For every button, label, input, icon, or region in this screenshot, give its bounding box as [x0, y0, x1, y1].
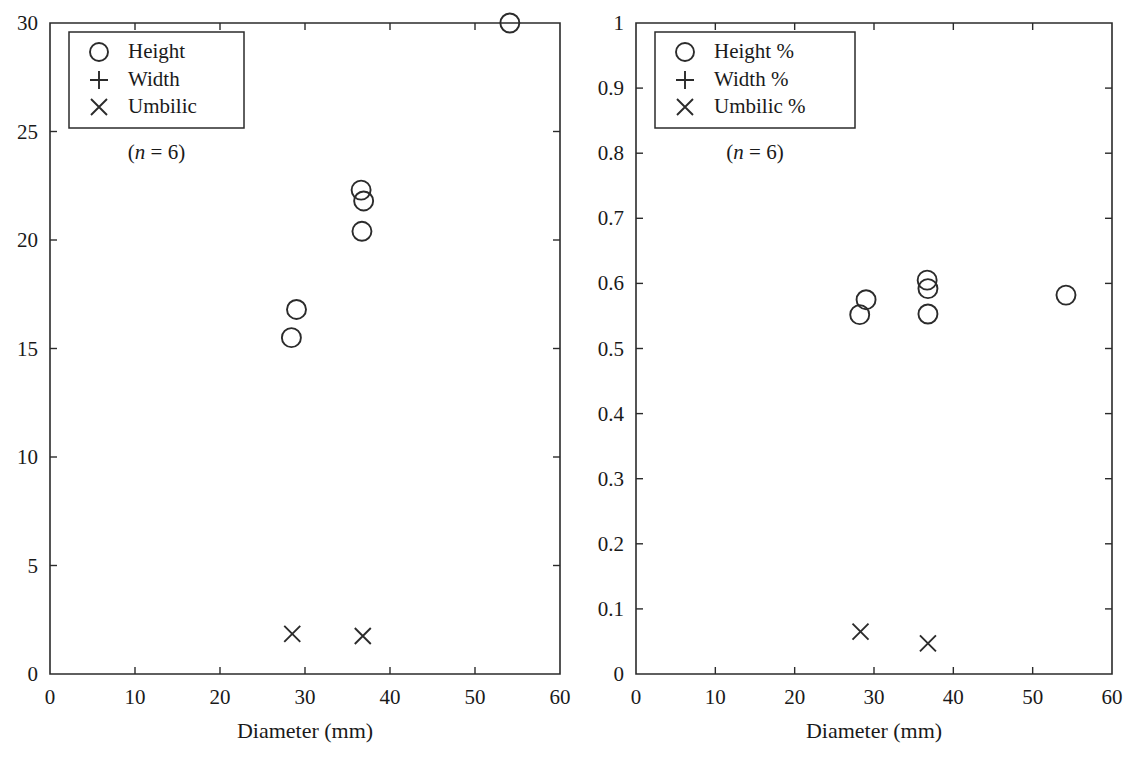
- y-tick-label: 10: [17, 445, 38, 469]
- y-tick-label: 0: [614, 662, 625, 686]
- legend-label: Height: [128, 39, 185, 63]
- data-point-cross: [920, 635, 936, 651]
- note-open-paren: (: [128, 140, 135, 164]
- data-point-circle: [287, 300, 306, 319]
- scatter-plot-right-svg: 00.10.20.30.40.50.60.70.80.9101020304050…: [586, 0, 1139, 758]
- legend-label: Width %: [714, 67, 788, 91]
- y-tick-label: 15: [17, 337, 38, 361]
- y-tick-label: 0.2: [598, 532, 624, 556]
- scatter-plot-left-svg: 0510152025300102030405060Diameter (mm)He…: [0, 0, 600, 758]
- x-axis-title: Diameter (mm): [806, 718, 942, 743]
- note-n-italic: n: [733, 140, 744, 164]
- y-tick-label: 1: [614, 11, 625, 35]
- figure-container: 0510152025300102030405060Diameter (mm)He…: [0, 0, 1139, 758]
- data-point-cross: [284, 626, 300, 642]
- y-tick-label: 0.4: [598, 402, 625, 426]
- data-point-circle: [850, 305, 869, 324]
- data-point-circle: [282, 328, 301, 347]
- y-tick-label: 0.1: [598, 597, 624, 621]
- y-tick-label: 30: [17, 11, 38, 35]
- y-tick-label: 0.9: [598, 76, 624, 100]
- scatter-panel-left: 0510152025300102030405060Diameter (mm)He…: [0, 0, 600, 758]
- legend-label: Height %: [714, 39, 794, 63]
- x-tick-label: 40: [943, 685, 964, 709]
- x-tick-label: 50: [1022, 685, 1043, 709]
- x-tick-label: 0: [631, 685, 642, 709]
- sample-size-note: (n = 6): [128, 140, 185, 164]
- data-point-cross: [355, 628, 371, 644]
- y-tick-label: 0: [28, 662, 39, 686]
- x-tick-label: 10: [125, 685, 146, 709]
- data-point-cross: [853, 624, 869, 640]
- x-tick-label: 50: [465, 685, 486, 709]
- data-point-circle: [354, 191, 373, 210]
- y-tick-label: 0.3: [598, 467, 624, 491]
- scatter-panel-right: 00.10.20.30.40.50.60.70.80.9101020304050…: [586, 0, 1139, 758]
- x-tick-label: 30: [295, 685, 316, 709]
- x-axis-title: Diameter (mm): [237, 718, 373, 743]
- y-tick-label: 5: [28, 554, 39, 578]
- y-tick-label: 25: [17, 120, 38, 144]
- y-tick-label: 20: [17, 228, 38, 252]
- legend-label: Umbilic %: [714, 94, 806, 118]
- y-tick-label: 0.5: [598, 337, 624, 361]
- x-tick-label: 20: [784, 685, 805, 709]
- x-tick-label: 30: [864, 685, 885, 709]
- y-tick-label: 0.7: [598, 206, 624, 230]
- y-tick-label: 0.6: [598, 271, 624, 295]
- x-tick-label: 20: [210, 685, 231, 709]
- x-tick-label: 10: [705, 685, 726, 709]
- x-tick-label: 0: [45, 685, 56, 709]
- x-tick-label: 60: [550, 685, 571, 709]
- note-rest: = 6): [145, 140, 185, 164]
- legend-label: Umbilic: [128, 94, 197, 118]
- sample-size-note: (n = 6): [726, 140, 783, 164]
- data-point-circle: [1056, 286, 1075, 305]
- data-point-circle: [352, 222, 371, 241]
- note-open-paren: (: [726, 140, 733, 164]
- y-tick-label: 0.8: [598, 141, 624, 165]
- data-point-circle: [918, 304, 937, 323]
- note-n-italic: n: [135, 140, 146, 164]
- note-rest: = 6): [744, 140, 784, 164]
- legend-label: Width: [128, 67, 180, 91]
- x-tick-label: 60: [1102, 685, 1123, 709]
- x-tick-label: 40: [380, 685, 401, 709]
- data-point-circle: [857, 290, 876, 309]
